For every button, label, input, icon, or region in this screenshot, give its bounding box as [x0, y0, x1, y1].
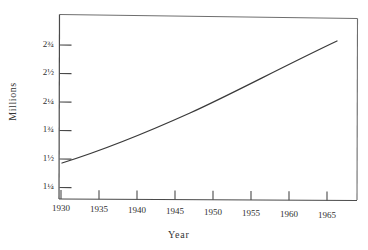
xtick-label-1955: 1955 — [234, 208, 268, 218]
xtick-label-1965: 1965 — [310, 210, 344, 220]
y-axis-line — [59, 15, 60, 200]
ytick-label-2-3-4: 2¾ — [28, 39, 54, 49]
plot-frame — [59, 15, 358, 201]
xtick-label-1950: 1950 — [196, 207, 230, 217]
ytick-label-1-1-2: 1½ — [28, 153, 54, 163]
xtick-label-1945: 1945 — [158, 206, 192, 216]
ytick-label-2-1-2: 2½ — [28, 67, 54, 77]
data-series-millions — [62, 41, 337, 163]
xtick-label-1930: 1930 — [44, 203, 78, 213]
series-line-millions — [62, 41, 337, 163]
y-axis-ticks — [60, 45, 72, 188]
ytick-label-1-3-4: 1¾ — [28, 124, 54, 134]
y-axis-title: Millions — [7, 72, 18, 132]
x-axis-title: Year — [168, 229, 190, 240]
xtick-label-1935: 1935 — [82, 204, 116, 214]
xtick-label-1940: 1940 — [120, 205, 154, 215]
frame-top-edge — [60, 15, 358, 19]
x-axis-line — [59, 199, 357, 201]
ytick-label-2-1-4: 2¼ — [28, 96, 54, 106]
chart-figure: 2¾ 2½ 2¼ 1¾ 1½ 1¼ 1930 1935 1940 1945 19… — [0, 0, 368, 250]
xtick-label-1960: 1960 — [272, 209, 306, 219]
frame-right-edge — [357, 19, 358, 201]
ytick-label-1-1-4: 1¼ — [28, 181, 54, 191]
